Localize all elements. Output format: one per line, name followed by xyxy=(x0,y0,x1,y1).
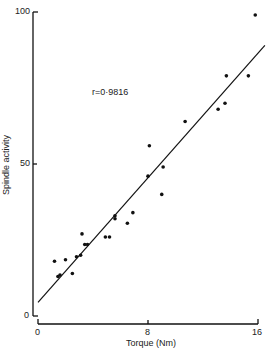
data-point xyxy=(131,211,135,215)
data-point xyxy=(183,120,187,124)
data-point xyxy=(126,221,130,225)
x-tick-label-8: 8 xyxy=(145,327,150,337)
x-axis-label: Torque (Nm) xyxy=(126,338,176,348)
data-point xyxy=(253,13,257,17)
scatter-plot xyxy=(0,0,269,350)
regression-line xyxy=(38,45,265,302)
data-point xyxy=(71,272,75,276)
data-point xyxy=(160,193,164,197)
data-point xyxy=(148,144,152,148)
data-point xyxy=(247,74,251,78)
y-tick-label-50: 50 xyxy=(20,158,30,168)
data-point xyxy=(146,174,150,178)
data-point xyxy=(53,259,57,263)
data-point xyxy=(216,107,220,111)
data-point xyxy=(104,235,108,239)
x-tick-label-16: 16 xyxy=(252,327,262,337)
y-tick-label-0: 0 xyxy=(24,310,29,320)
data-point xyxy=(58,273,62,277)
data-points xyxy=(53,13,257,278)
correlation-annotation: r=0·9816 xyxy=(92,87,128,97)
data-point xyxy=(86,243,90,247)
data-point xyxy=(64,258,68,262)
x-tick-label-0: 0 xyxy=(35,327,40,337)
y-axis-label: Spindle activity xyxy=(1,135,11,195)
data-point xyxy=(161,165,165,169)
data-point xyxy=(225,74,229,78)
data-point xyxy=(75,255,79,259)
data-point xyxy=(80,232,84,236)
data-point xyxy=(113,214,117,218)
data-point xyxy=(79,253,83,257)
regression-line-segment xyxy=(38,45,265,302)
data-point xyxy=(223,101,227,105)
data-point xyxy=(108,235,112,239)
y-tick-label-100: 100 xyxy=(15,6,30,16)
